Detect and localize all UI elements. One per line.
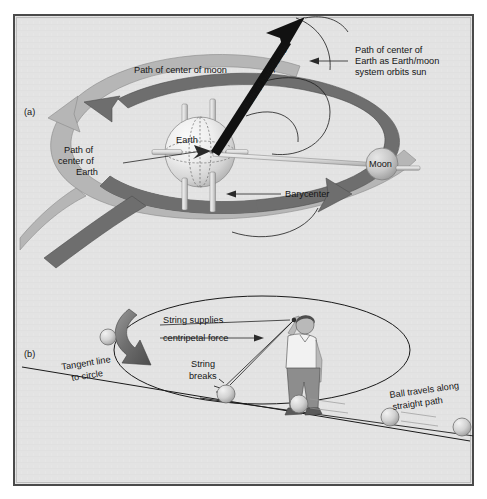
label-earth-path-line-1: Path of (64, 145, 94, 155)
label-path-of-center-of-moon: Path of center of moon (134, 65, 227, 75)
moon-rod-right (396, 166, 420, 170)
label-earth-path-line-2: center of (58, 156, 94, 166)
label-string-breaks-1: String (191, 359, 215, 369)
label-string-supplies: String supplies (163, 315, 224, 325)
label-barycenter: Barycenter (285, 189, 329, 199)
panel-b-label: (b) (24, 349, 35, 359)
rod-left (152, 150, 182, 155)
label-string-breaks-2: breaks (189, 371, 217, 381)
figure-svg: (a) Path of center of moon Path of baryc… (0, 0, 487, 499)
rod-bottom-front (210, 172, 216, 212)
ball-on-circle-left (100, 329, 116, 345)
hand-anchor-point (292, 318, 297, 323)
label-centripetal-force: centripetal force (163, 333, 228, 343)
figure-root: (a) Path of center of moon Path of baryc… (0, 0, 487, 499)
label-sun-path-line-3: system orbits sun (355, 67, 426, 77)
rod-bottom-back (182, 178, 188, 210)
label-moon: Moon (369, 159, 392, 169)
panel-a-label: (a) (24, 107, 35, 117)
ball-at-break-point (217, 385, 235, 403)
ball-flight-3 (453, 418, 471, 436)
label-earth: Earth (176, 135, 198, 145)
label-earth-path-line-3: Earth (76, 167, 98, 177)
ball-flight-1 (290, 395, 308, 413)
label-sun-path-line-1: Path of center of (355, 45, 423, 55)
label-sun-path-line-2: Earth as Earth/moon (355, 56, 439, 66)
